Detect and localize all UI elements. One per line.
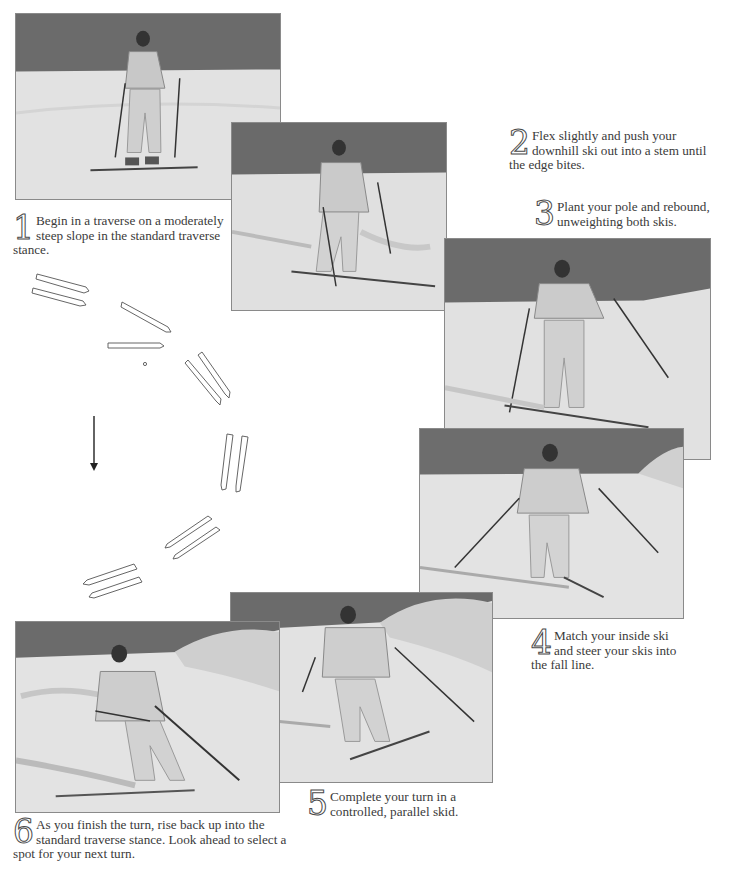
ski-track-6b: [173, 527, 220, 559]
ski-track-3: [108, 343, 164, 348]
step-6-caption: 6As you finish the turn, rise back up in…: [13, 818, 288, 862]
step-6-text: As you finish the turn, rise back up int…: [13, 817, 286, 861]
ski-track-1a: [36, 274, 89, 293]
ski-track-6a: [165, 516, 212, 548]
step-3-text: Plant your pole and rebound, unweighting…: [557, 199, 710, 229]
step-2-text: Flex slightly and push your downhill ski…: [509, 128, 706, 172]
step-3-number: 3: [534, 201, 555, 229]
step-4-caption: 4Match your inside ski and steer your sk…: [531, 629, 681, 673]
ski-positions-svg: [20, 260, 260, 600]
step-1-number: 1: [13, 215, 34, 243]
step-6-photo: [15, 621, 280, 813]
ski-track-1b: [32, 288, 86, 306]
ski-track-2: [121, 302, 171, 332]
step-3-caption: 3Plant your pole and rebound, unweightin…: [534, 200, 730, 229]
ski-track-5a: [221, 434, 233, 490]
ski-track-7a: [83, 564, 137, 585]
step-1-text: Begin in a traverse on a moderately stee…: [13, 213, 223, 257]
step-5-number: 5: [307, 791, 328, 819]
step-2-caption: 2Flex slightly and push your downhill sk…: [509, 129, 719, 173]
step-2-photo: [231, 122, 447, 311]
ski-track-5b: [236, 436, 248, 492]
step-3-photo: [444, 238, 711, 460]
ski-turn-diagram: [20, 260, 260, 600]
step-4-photo: [419, 428, 684, 619]
step-6-number: 6: [13, 819, 34, 847]
down-arrow-icon: [90, 416, 98, 471]
ski-track-4a: [185, 360, 221, 405]
step-5-caption: 5Complete your turn in a controlled, par…: [307, 790, 477, 819]
step-4-text: Match your inside ski and steer your ski…: [531, 628, 676, 672]
step-4-number: 4: [531, 630, 552, 658]
ski-track-7b: [89, 577, 142, 598]
step-5-text: Complete your turn in a controlled, para…: [330, 789, 458, 819]
step-2-number: 2: [509, 130, 530, 158]
step-1-caption: 1Begin in a traverse on a moderately ste…: [13, 214, 233, 258]
pole-plant-mark: [143, 362, 146, 365]
